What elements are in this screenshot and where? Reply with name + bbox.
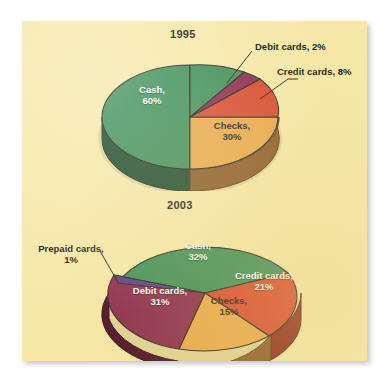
- label-credit-2003: Credit cards, 21%: [224, 270, 304, 292]
- chart-title-2003: 2003: [167, 199, 193, 211]
- chart-paper-panel: 1995 Cash, 60% Checks, 30% Debit cards, …: [22, 21, 367, 361]
- pie-chart-2003: 2003 Cash, 32% Credit cards, 21% Checks,…: [22, 21, 367, 361]
- label-credit-2003-line2: 21%: [224, 281, 304, 292]
- label-debit-2003-line1: Debit cards,: [118, 285, 202, 296]
- label-cash-2003-line2: 32%: [167, 251, 229, 262]
- label-cash-2003-line1: Cash,: [167, 240, 229, 251]
- pie-2003-svg: [22, 21, 367, 361]
- label-prepaid-2003-line2: 1%: [30, 254, 112, 265]
- label-credit-2003-line1: Credit cards,: [224, 270, 304, 281]
- figure-root: 1995 Cash, 60% Checks, 30% Debit cards, …: [0, 0, 391, 383]
- label-cash-2003: Cash, 32%: [167, 240, 229, 262]
- label-prepaid-2003-line1: Prepaid cards,: [30, 243, 112, 254]
- label-debit-2003-line2: 31%: [118, 296, 202, 307]
- label-debit-2003: Debit cards, 31%: [118, 285, 202, 307]
- label-prepaid-2003: Prepaid cards, 1%: [30, 243, 112, 265]
- label-checks-2003-line1: Checks,: [198, 295, 260, 306]
- label-checks-2003: Checks, 15%: [198, 295, 260, 317]
- label-checks-2003-line2: 15%: [198, 306, 260, 317]
